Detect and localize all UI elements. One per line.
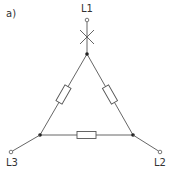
- subfigure-label: a): [6, 8, 16, 19]
- resistor-bottom: [77, 132, 96, 139]
- delta-triangle: [40, 54, 133, 135]
- terminal-l3: [9, 150, 13, 154]
- l2-conductor: [133, 135, 162, 154]
- terminal-label-l3: L3: [6, 157, 18, 168]
- resistor-right: [102, 85, 117, 104]
- l3-conductor: [9, 135, 40, 154]
- resistor-left: [56, 85, 71, 104]
- terminal-l2: [158, 150, 162, 154]
- delta-circuit-diagram: a) L1 L3 L2: [0, 0, 174, 181]
- terminal-label-l1: L1: [81, 3, 93, 14]
- terminal-l1: [85, 18, 89, 22]
- terminal-label-l2: L2: [154, 157, 166, 168]
- node-top: [85, 52, 89, 56]
